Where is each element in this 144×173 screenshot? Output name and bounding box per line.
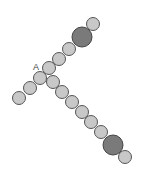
lower-bead-small [56,86,69,99]
junction-label-a: A [33,62,39,72]
upper-bead-small [34,72,47,85]
lower-bead-large [103,135,123,155]
upper-bead-small [13,92,26,105]
bead-chain-diagram: A [0,0,144,173]
upper-bead-small [24,82,37,95]
upper-bead-small [43,62,56,75]
upper-bead-small [87,18,100,31]
lower-bead-chain [47,76,132,164]
lower-bead-small [119,151,132,164]
upper-bead-small [63,43,76,56]
upper-bead-small [53,53,66,66]
upper-bead-large [72,27,92,47]
lower-bead-small [66,96,79,109]
lower-bead-small [95,126,108,139]
lower-bead-small [85,116,98,129]
lower-bead-small [47,76,60,89]
lower-bead-small [76,106,89,119]
